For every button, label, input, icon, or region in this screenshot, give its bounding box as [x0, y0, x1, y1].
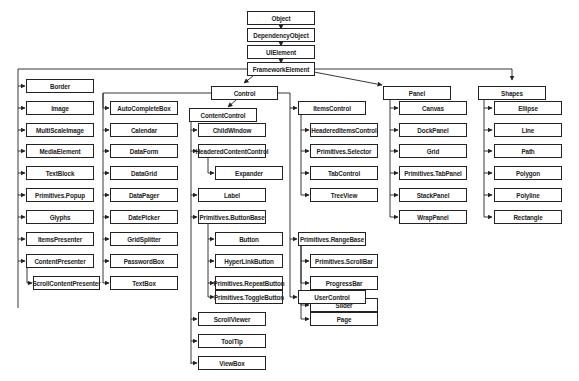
node-grid-splitter[interactable]: GridSplitter [110, 232, 178, 246]
node-object[interactable]: Object [247, 11, 315, 25]
node-dock-panel[interactable]: DockPanel [399, 123, 467, 137]
node-dependency-object[interactable]: DependencyObject [247, 28, 315, 42]
node-wrap-panel[interactable]: WrapPanel [399, 210, 467, 224]
node-glyphs[interactable]: Glyphs [26, 210, 94, 224]
node-panel[interactable]: Panel [383, 86, 451, 100]
node-hyperlink-button[interactable]: HyperLinkButton [215, 254, 283, 268]
node-primitives-selector[interactable]: Primitives.Selector [310, 144, 378, 158]
node-stack-panel[interactable]: StackPanel [399, 188, 467, 202]
node-scroll-content-presenter[interactable]: ScrollContentPresenter [33, 276, 100, 290]
node-line[interactable]: Line [494, 123, 562, 137]
node-tool-tip[interactable]: ToolTip [198, 334, 266, 348]
node-media-element[interactable]: MediaElement [26, 144, 94, 158]
node-tab-control[interactable]: TabControl [310, 166, 378, 180]
node-password-box[interactable]: PasswordBox [110, 254, 178, 268]
node-control[interactable]: Control [211, 86, 278, 100]
node-items-control[interactable]: ItemsControl [298, 101, 366, 115]
node-auto-complete-box[interactable]: AutoCompleteBox [110, 101, 178, 115]
node-polyline[interactable]: Polyline [494, 188, 562, 202]
node-child-window[interactable]: ChildWindow [198, 123, 266, 137]
node-label[interactable]: Label [198, 188, 266, 202]
node-ui-element[interactable]: UIElement [247, 45, 315, 59]
node-border[interactable]: Border [26, 79, 94, 93]
node-rectangle[interactable]: Rectangle [494, 210, 562, 224]
node-path[interactable]: Path [494, 144, 562, 158]
node-items-presenter[interactable]: ItemsPresenter [26, 232, 94, 246]
node-primitives-scroll-bar[interactable]: Primitives.ScrollBar [310, 254, 378, 268]
node-page[interactable]: Page [310, 312, 378, 326]
node-progress-bar[interactable]: ProgressBar [310, 276, 378, 290]
node-primitives-button-base[interactable]: Primitives.ButtonBase [198, 210, 266, 224]
node-headered-items-control[interactable]: HeaderedItemsControl [310, 123, 378, 137]
node-date-picker[interactable]: DatePicker [110, 210, 178, 224]
node-primitives-repeat-button[interactable]: Primitives.RepeatButton [215, 276, 283, 290]
node-primitives-tab-panel[interactable]: Primitives.TabPanel [399, 166, 467, 180]
node-shapes[interactable]: Shapes [478, 86, 546, 100]
node-data-grid[interactable]: DataGrid [110, 166, 178, 180]
class-hierarchy-diagram: Object DependencyObject UIElement Framew… [0, 0, 579, 381]
node-framework-element[interactable]: FrameworkElement [247, 62, 315, 76]
node-multi-scale-image[interactable]: MultiScaleImage [26, 123, 94, 137]
node-content-control[interactable]: ContentControl [189, 108, 257, 122]
node-data-form[interactable]: DataForm [110, 144, 178, 158]
node-canvas[interactable]: Canvas [399, 101, 467, 115]
node-scroll-viewer[interactable]: ScrollViewer [198, 312, 266, 326]
node-text-box[interactable]: TextBox [110, 276, 178, 290]
node-tree-view[interactable]: TreeView [310, 188, 378, 202]
node-calendar[interactable]: Calendar [110, 123, 178, 137]
node-image[interactable]: Image [26, 101, 94, 115]
node-grid[interactable]: Grid [399, 144, 467, 158]
node-content-presenter[interactable]: ContentPresenter [26, 254, 94, 268]
node-polygon[interactable]: Polygon [494, 166, 562, 180]
node-primitives-popup[interactable]: Primitives.Popup [26, 188, 94, 202]
node-primitives-range-base[interactable]: Primitives.RangeBase [298, 232, 366, 246]
node-headered-content-control[interactable]: HeaderedContentControl [198, 144, 266, 158]
node-button[interactable]: Button [215, 232, 283, 246]
node-expander[interactable]: Expander [215, 166, 283, 180]
node-view-box[interactable]: ViewBox [198, 356, 266, 370]
node-user-control[interactable]: UserControl [298, 290, 366, 304]
node-ellipse[interactable]: Ellipse [494, 101, 562, 115]
node-data-pager[interactable]: DataPager [110, 188, 178, 202]
node-primitives-toggle-button[interactable]: Primitives.ToggleButton [215, 290, 283, 304]
node-text-block[interactable]: TextBlock [26, 166, 94, 180]
